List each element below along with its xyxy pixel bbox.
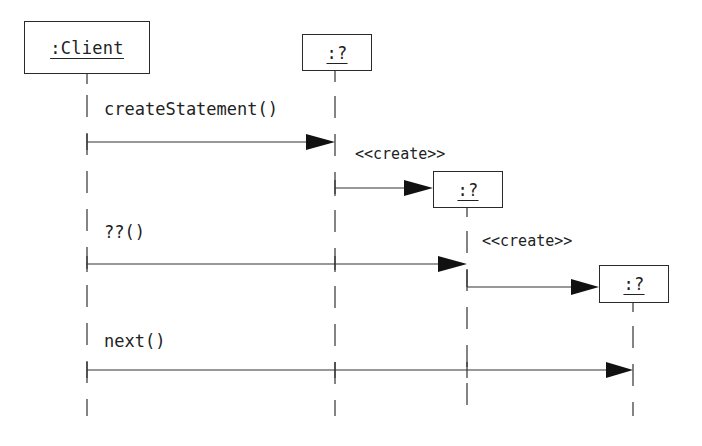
message-label-create-obj3: <<create>>	[482, 232, 572, 250]
object-label: :?	[457, 180, 478, 200]
arrowhead-icon	[606, 362, 633, 378]
message-label-next: next()	[104, 331, 165, 351]
arrowhead-icon	[571, 279, 599, 295]
arrowhead-icon	[306, 134, 335, 150]
message-arrow-createStatement	[87, 134, 335, 150]
message-label-unknown: ??()	[104, 222, 145, 242]
object-client: :Client	[24, 21, 150, 74]
arrowhead-icon	[404, 180, 433, 196]
object-label: :?	[623, 274, 644, 294]
sequence-diagram: :Client :? :? :? createStatement() <<cre…	[0, 0, 702, 446]
arrowhead-icon	[438, 256, 467, 272]
object-label: :Client	[50, 38, 124, 58]
message-arrow-create-obj3	[467, 270, 599, 295]
object-label: :?	[326, 43, 347, 63]
object-obj3: :?	[599, 265, 669, 303]
message-arrow-next	[87, 362, 633, 378]
message-arrow-create-obj2	[335, 180, 433, 196]
message-label-create-obj2: <<create>>	[355, 145, 445, 163]
message-arrow-unknown	[87, 256, 467, 272]
object-obj1: :?	[302, 34, 372, 71]
message-label-createStatement: createStatement()	[104, 99, 278, 119]
object-obj2: :?	[433, 171, 503, 208]
